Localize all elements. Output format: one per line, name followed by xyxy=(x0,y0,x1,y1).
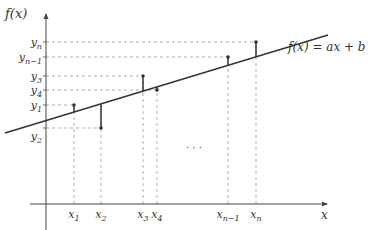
x-tick-label: x2 xyxy=(95,208,106,223)
y-tick-label: yn−1 xyxy=(18,51,42,66)
x-tick-label: xn−1 xyxy=(216,208,239,223)
data-point xyxy=(226,55,230,59)
axis-labels: ynyn−1y3y4y1y2x1x2x3x4xn−1xn xyxy=(18,36,262,223)
ellipsis: · · · xyxy=(186,142,202,153)
x-tick-label: x1 xyxy=(68,208,79,223)
data-point xyxy=(254,40,258,44)
y-tick-label: y3 xyxy=(30,70,42,85)
x-axis-label: x xyxy=(321,208,328,222)
y-tick-label: y4 xyxy=(30,84,42,99)
y-tick-label: y1 xyxy=(30,99,42,114)
regression-diagram: ynyn−1y3y4y1y2x1x2x3x4xn−1xn f(x) x f(x)… xyxy=(0,0,378,230)
y-tick-label: yn xyxy=(30,36,42,51)
x-tick-label: x3 xyxy=(137,208,148,223)
data-point xyxy=(141,74,145,78)
data-point xyxy=(155,88,159,92)
data-point xyxy=(99,126,103,130)
y-axis-label: f(x) xyxy=(4,6,27,21)
x-tick-label: xn xyxy=(250,208,261,223)
data-point xyxy=(72,103,76,107)
regression-line xyxy=(5,35,328,133)
y-tick-label: y2 xyxy=(30,130,42,145)
line-equation-label: f(x) = ax + b xyxy=(287,40,366,54)
x-tick-label: x4 xyxy=(151,208,162,223)
